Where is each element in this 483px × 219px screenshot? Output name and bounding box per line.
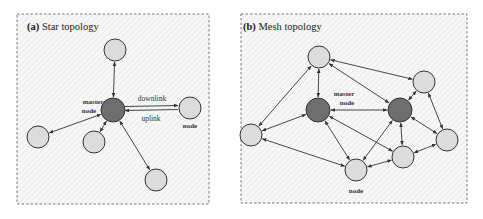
node-top xyxy=(308,46,330,68)
node-n_left xyxy=(27,126,49,148)
mesh-panel-title: (b) Mesh topology xyxy=(243,21,323,33)
master-node-master xyxy=(101,98,125,122)
node-right xyxy=(436,129,458,151)
node-left xyxy=(240,124,262,146)
node-n_small xyxy=(83,131,105,153)
uplink-label: uplink xyxy=(141,114,160,123)
edge-top-m1 xyxy=(318,69,319,97)
node-ur xyxy=(413,71,435,93)
topology-diagram: (a) Star topology master node downlink u… xyxy=(0,0,483,219)
star-panel-title: (a) Star topology xyxy=(27,21,99,33)
mesh-node-label: node xyxy=(349,187,363,195)
mesh-master-node-label-line1: master xyxy=(334,90,355,98)
node-n_top xyxy=(104,39,126,61)
star-topology-panel: (a) Star topology master node downlink u… xyxy=(17,14,209,204)
mesh-topology-panel: (b) Mesh topology master node node xyxy=(240,14,467,203)
downlink-label: downlink xyxy=(138,94,167,103)
node-n_right xyxy=(179,97,201,119)
master-node-label-line2: node xyxy=(82,107,96,115)
mesh-master-node-label-line2: node xyxy=(340,99,354,107)
master-node-m1 xyxy=(306,98,330,122)
node-mr xyxy=(392,146,414,168)
node-n_bottom xyxy=(145,169,167,191)
master-node-m2 xyxy=(388,98,412,122)
node-bottom xyxy=(345,159,367,181)
master-node-label-line1: master xyxy=(83,98,104,106)
node-label: node xyxy=(183,122,197,130)
